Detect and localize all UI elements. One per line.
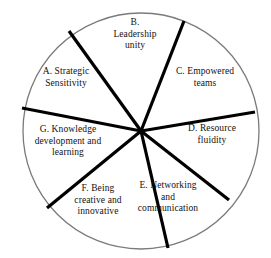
- wheel-graphic: [0, 0, 271, 258]
- agility-wheel-diagram: A. Strategic Sensitivity B. Leadership u…: [0, 0, 271, 258]
